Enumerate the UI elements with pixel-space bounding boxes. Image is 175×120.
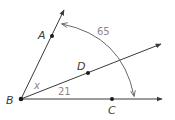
angle-label-abd: x xyxy=(33,80,40,91)
point-label-c: C xyxy=(108,104,116,117)
point-c xyxy=(110,97,114,101)
ray-bd xyxy=(21,44,161,99)
vertex-label-b: B xyxy=(6,94,14,107)
point-label-d: D xyxy=(77,60,85,73)
angle-diagram: B A D C 65 x 21 xyxy=(0,0,175,120)
point-d xyxy=(86,71,90,75)
point-label-a: A xyxy=(37,29,46,42)
point-a xyxy=(50,34,54,38)
angle-label-dbc: 21 xyxy=(58,86,71,97)
vertex-point-b xyxy=(19,97,24,102)
angle-label-abc: 65 xyxy=(97,26,110,37)
